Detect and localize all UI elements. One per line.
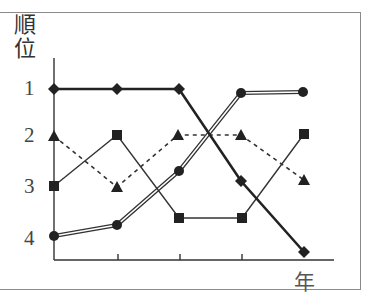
triangle-markers (48, 129, 310, 192)
series-triangle (48, 129, 310, 192)
plot-area (0, 0, 373, 298)
